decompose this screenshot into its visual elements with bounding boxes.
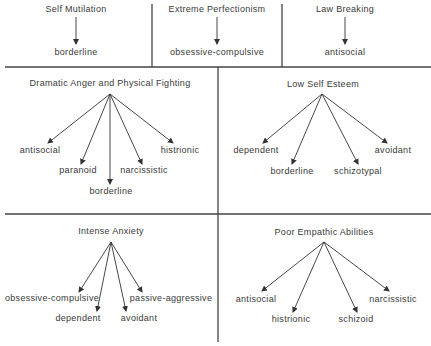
category-law-breaking: Law Breaking <box>316 4 374 14</box>
disorder-label: antisocial <box>325 47 366 57</box>
disorder-label: avoidant <box>121 313 157 323</box>
category-extreme-perfectionism: Extreme Perfectionism <box>169 4 266 14</box>
disorder-label: borderline <box>270 166 313 176</box>
disorder-label: histrionic <box>272 314 311 324</box>
disorder-label: narcissistic <box>120 165 168 175</box>
disorder-label: obsessive-compulsive <box>170 47 264 57</box>
disorder-label: borderline <box>89 186 132 196</box>
disorder-label: dependent <box>233 145 278 155</box>
disorder-label: borderline <box>54 47 97 57</box>
disorder-label: schizoid <box>339 314 374 324</box>
disorder-label: histrionic <box>161 145 200 155</box>
category-self-mutilation: Self Mutilation <box>45 4 106 14</box>
category-dramatic-anger: Dramatic Anger and Physical Fighting <box>30 78 191 88</box>
category-poor-empathic-abilities: Poor Empathic Abilities <box>275 227 374 237</box>
category-low-self-esteem: Low Self Esteem <box>287 79 359 89</box>
disorder-label: passive-aggressive <box>130 293 212 303</box>
disorder-label: schizotypal <box>334 166 382 176</box>
disorder-label: dependent <box>55 313 100 323</box>
disorder-label: obsessive-compulsive <box>5 293 99 303</box>
category-intense-anxiety: Intense Anxiety <box>78 226 144 236</box>
disorder-label: paranoid <box>59 165 96 175</box>
disorder-label: antisocial <box>20 145 61 155</box>
disorder-label: avoidant <box>375 145 411 155</box>
disorder-label: narcissistic <box>369 294 417 304</box>
disorder-label: antisocial <box>236 294 277 304</box>
